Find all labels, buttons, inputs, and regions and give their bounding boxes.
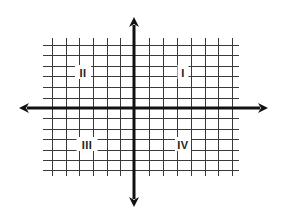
coordinate-plane: I II III IV (0, 0, 282, 218)
quadrant-1-label: I (181, 67, 185, 79)
quadrant-4: IV (175, 137, 191, 151)
quadrant-3-label: III (82, 139, 93, 151)
quadrant-2-label: II (79, 67, 86, 79)
quadrant-2: II (75, 65, 91, 79)
quadrant-1: I (178, 65, 189, 79)
quadrant-3: III (77, 137, 98, 151)
quadrant-4-label: IV (177, 139, 189, 151)
